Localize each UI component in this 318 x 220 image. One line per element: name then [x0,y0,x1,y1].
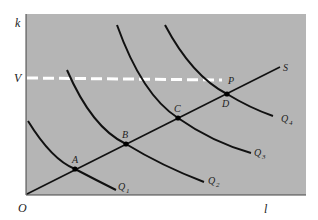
point-b [123,141,128,146]
svg-text:1: 1 [126,187,130,195]
point-b-label: B [122,129,128,140]
x-axis-label: l [264,202,268,216]
point-c-label: C [174,103,181,114]
svg-text:Q: Q [254,147,262,158]
v-label: V [14,71,23,85]
plot-area [26,14,306,195]
svg-text:Q: Q [281,113,289,124]
svg-text:4: 4 [289,119,293,127]
y-axis-label: k [15,16,21,30]
point-d-label: D [221,98,230,109]
point-d [224,91,229,96]
point-p-label: P [227,75,234,86]
point-a-label: A [71,154,79,165]
point-c [175,115,180,120]
s-label: S [283,62,288,73]
origin-label: O [18,201,27,215]
svg-text:Q: Q [208,175,216,186]
point-a [72,166,77,171]
svg-text:3: 3 [261,153,266,161]
svg-text:2: 2 [216,181,220,189]
isoquant-diagram: k V O l S A B C D P Q 1 Q 2 Q 3 Q 4 [0,0,318,220]
svg-text:Q: Q [118,181,126,192]
